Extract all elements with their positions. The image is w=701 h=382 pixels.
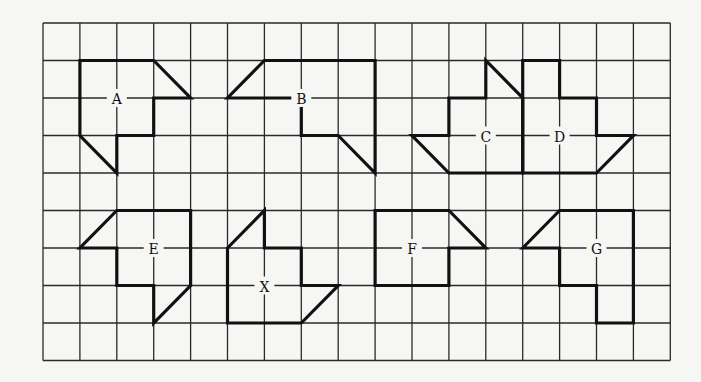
- shape-label-c: C: [480, 129, 491, 145]
- shape-label-d: D: [554, 129, 565, 145]
- shape-e: [80, 211, 191, 324]
- shape-c: [412, 61, 523, 174]
- shape-d: [523, 61, 634, 174]
- shape-label-b: B: [296, 91, 306, 107]
- shape-label-a: A: [111, 91, 123, 107]
- labels-layer: ABCDEXFG: [107, 89, 607, 295]
- shape-label-x: X: [259, 279, 269, 295]
- grid-lines: [43, 23, 670, 361]
- shape-label-f: F: [407, 241, 417, 257]
- shapes-layer: [80, 61, 634, 324]
- shape-a: [80, 61, 191, 174]
- shapes-grid-figure: ABCDEXFG: [0, 0, 701, 382]
- shape-x: [228, 211, 339, 324]
- shape-label-g: G: [591, 241, 602, 257]
- shape-label-e: E: [149, 241, 159, 257]
- shape-g: [523, 211, 634, 324]
